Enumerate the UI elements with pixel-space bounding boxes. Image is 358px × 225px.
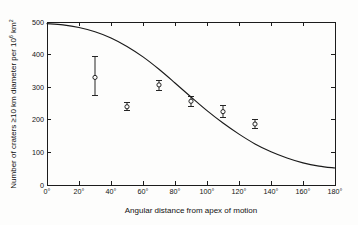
x-tick-label: 60°: [138, 187, 149, 196]
data-marker-circle: [93, 75, 97, 79]
data-marker-circle: [253, 122, 257, 126]
chart-canvas: 0100200300400500 0°20°40°60°80°100°120°1…: [0, 0, 358, 225]
x-tick-label: 100°: [200, 187, 215, 196]
data-marker-circle: [189, 99, 193, 103]
y-tick-label: 500: [32, 18, 44, 27]
x-tick-label: 160°: [296, 187, 311, 196]
y-tick-label: 100: [32, 148, 44, 157]
x-tick-label: 0°: [44, 187, 51, 196]
crater-density-figure: 0100200300400500 0°20°40°60°80°100°120°1…: [0, 0, 358, 225]
x-tick-label: 40°: [106, 187, 117, 196]
x-tick-label: 80°: [170, 187, 181, 196]
y-tick-label: 200: [32, 115, 44, 124]
y-tick-label: 300: [32, 83, 44, 92]
y-axis-title: Number of craters ≥10 km diameter per 10…: [8, 19, 18, 188]
data-marker-circle: [157, 83, 161, 87]
x-tick-label: 20°: [74, 187, 85, 196]
x-tick-label: 120°: [232, 187, 247, 196]
x-tick-label: 140°: [264, 187, 279, 196]
svg-text:Number of craters ≥10 km diame: Number of craters ≥10 km diameter per 10…: [8, 19, 18, 188]
y-tick-label: 400: [32, 50, 44, 59]
x-axis-title: Angular distance from apex of motion: [125, 206, 258, 215]
data-marker-circle: [221, 110, 225, 114]
x-tick-label: 180°: [328, 187, 343, 196]
data-marker-circle: [125, 105, 129, 109]
